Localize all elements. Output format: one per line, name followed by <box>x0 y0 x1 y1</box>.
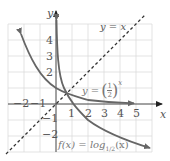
y-tick-2: 2 <box>46 67 53 78</box>
x-tick-4: 4 <box>117 108 124 119</box>
label-logarithm: f(x) = log1/2(x) <box>58 139 129 152</box>
x-tick-1: 1 <box>68 108 75 119</box>
x-tick-minus-2: −2 <box>13 98 29 109</box>
y-tick-3: 3 <box>46 51 53 62</box>
x-tick-3: 3 <box>101 108 108 119</box>
label-exponential: y = ( 1 2 ) x <box>82 81 122 100</box>
log-base: 1/2 <box>106 145 116 152</box>
x-tick-minus-1: −1 <box>30 98 46 109</box>
line-y-equals-x <box>6 14 146 154</box>
log-suffix: (x) <box>115 139 128 150</box>
grid <box>8 24 152 152</box>
y-tick-minus-1: −1 <box>42 113 58 124</box>
x-tick-2: 2 <box>85 108 92 119</box>
exp-label-prefix: y = <box>82 85 99 96</box>
y-tick-4: 4 <box>46 35 53 46</box>
label-y-equals-x: y = x <box>100 22 126 32</box>
log-label-prefix: f(x) = log <box>58 139 106 150</box>
exp-power: x <box>118 79 122 87</box>
y-tick-minus-2: −2 <box>42 129 58 140</box>
y-axis-label: y <box>47 8 53 19</box>
x-axis-label: x <box>160 109 166 120</box>
x-tick-5: 5 <box>133 108 140 119</box>
